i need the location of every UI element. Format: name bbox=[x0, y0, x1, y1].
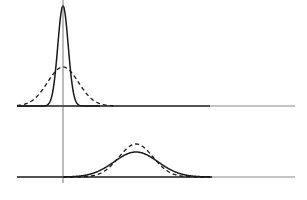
bottom-solid-curve bbox=[63, 152, 212, 177]
gaussian-comparison-figure bbox=[0, 0, 307, 200]
bottom-panel bbox=[17, 144, 295, 177]
top-solid-curve bbox=[17, 6, 100, 106]
top-dashed-curve bbox=[17, 67, 115, 106]
bottom-dashed-curve bbox=[63, 144, 210, 177]
top-panel bbox=[17, 6, 295, 106]
